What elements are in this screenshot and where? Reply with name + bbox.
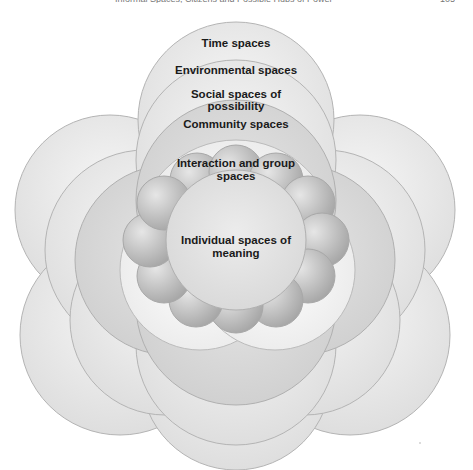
label-individual-spaces-line2: meaning bbox=[212, 247, 259, 260]
stray-mark bbox=[419, 442, 421, 444]
label-environmental-spaces: Environmental spaces bbox=[175, 64, 297, 77]
label-social-spaces-line2: possibility bbox=[208, 100, 265, 113]
label-community-spaces: Community spaces bbox=[183, 118, 288, 131]
label-individual-spaces-line1: Individual spaces of bbox=[181, 234, 291, 247]
label-interaction-spaces-line2: spaces bbox=[216, 170, 255, 183]
label-time-spaces: Time spaces bbox=[202, 37, 271, 50]
label-interaction-spaces-line1: Interaction and group bbox=[177, 157, 295, 170]
